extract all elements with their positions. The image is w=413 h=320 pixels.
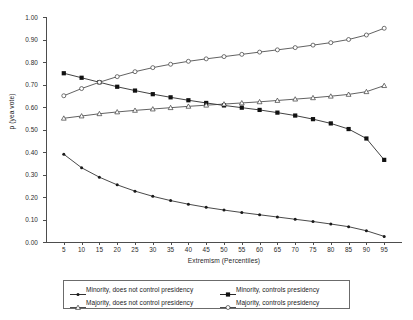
series-line [64, 73, 384, 160]
data-point-small-filled-circle [383, 235, 386, 238]
data-point-filled-square [311, 117, 315, 121]
legend-row: Majority, does not control presidencyMaj… [64, 296, 349, 309]
data-point-small-filled-circle [187, 203, 190, 206]
legend-item[interactable]: Majority, does not control presidency [64, 296, 218, 309]
data-point-open-circle [80, 87, 84, 91]
chart-figure: 0.000.100.200.300.400.500.600.700.800.90… [0, 0, 413, 320]
data-point-open-circle [275, 48, 279, 52]
data-point-filled-square [329, 121, 333, 125]
series-0 [62, 153, 385, 238]
data-point-small-filled-circle [365, 229, 368, 232]
data-point-small-filled-circle [329, 223, 332, 226]
chart-series-layer [0, 0, 413, 320]
data-point-filled-square [293, 113, 297, 117]
data-point-open-circle [382, 26, 386, 30]
data-point-small-filled-circle [62, 153, 65, 156]
data-point-filled-square [226, 292, 230, 296]
data-point-filled-square [151, 92, 155, 96]
data-point-filled-square [80, 76, 84, 80]
data-point-small-filled-circle [312, 220, 315, 223]
legend-label: Majority, controls presidency [236, 298, 319, 307]
data-point-small-filled-circle [151, 195, 154, 198]
data-point-open-triangle [382, 83, 387, 87]
data-point-open-circle [204, 57, 208, 61]
legend-item[interactable]: Minority, controls presidency [218, 283, 349, 296]
data-point-small-filled-circle [294, 218, 297, 221]
data-point-small-filled-circle [240, 211, 243, 214]
series-3 [62, 26, 386, 98]
data-point-open-circle [169, 62, 173, 66]
data-point-open-circle [62, 94, 66, 98]
data-point-filled-square [382, 158, 386, 162]
data-point-filled-square [364, 136, 368, 140]
data-point-open-circle [240, 52, 244, 56]
data-point-small-filled-circle [169, 199, 172, 202]
data-point-open-circle [311, 43, 315, 47]
data-point-small-filled-circle [134, 190, 137, 193]
data-point-small-filled-circle [276, 216, 279, 219]
data-point-open-circle [293, 46, 297, 50]
legend-marker-small-filled-circle-icon [70, 285, 86, 294]
legend-marker-open-circle-icon [220, 298, 236, 307]
series-2 [61, 83, 386, 120]
data-point-small-filled-circle [116, 183, 119, 186]
legend-marker-open-triangle-icon [70, 298, 86, 307]
data-point-open-circle [115, 75, 119, 79]
data-point-open-circle [97, 80, 101, 84]
data-point-open-circle [186, 59, 190, 63]
data-point-open-circle [226, 305, 230, 309]
data-point-small-filled-circle [223, 209, 226, 212]
legend-label: Minority, controls presidency [236, 285, 319, 294]
data-point-open-circle [329, 41, 333, 45]
legend-item[interactable]: Majority, controls presidency [218, 296, 349, 309]
series-line [64, 154, 384, 236]
series-1 [62, 71, 387, 162]
chart-legend: Minority, does not control presidencyMin… [63, 280, 350, 309]
data-point-small-filled-circle [77, 293, 80, 296]
y-axis-title: p (yea vote) [8, 67, 15, 157]
legend-label: Majority, does not control presidency [86, 298, 193, 307]
data-point-open-circle [347, 38, 351, 42]
legend-item[interactable]: Minority, does not control presidency [64, 283, 218, 296]
data-point-open-circle [258, 50, 262, 54]
legend-row: Minority, does not control presidencyMin… [64, 283, 349, 296]
data-point-filled-square [240, 106, 244, 110]
data-point-small-filled-circle [205, 206, 208, 209]
x-axis-title: Extremism (Percentiles) [46, 257, 402, 264]
data-point-open-circle [222, 55, 226, 59]
data-point-filled-square [186, 98, 190, 102]
legend-label: Minority, does not control presidency [86, 285, 193, 294]
data-point-filled-square [133, 88, 137, 92]
data-point-filled-square [62, 71, 66, 75]
data-point-filled-square [347, 127, 351, 131]
data-point-small-filled-circle [347, 225, 350, 228]
data-point-small-filled-circle [258, 213, 261, 216]
data-point-open-circle [133, 70, 137, 74]
data-point-filled-square [115, 85, 119, 89]
data-point-filled-square [258, 108, 262, 112]
data-point-filled-square [275, 111, 279, 115]
data-point-small-filled-circle [98, 176, 101, 179]
data-point-open-circle [364, 33, 368, 37]
data-point-open-circle [151, 66, 155, 70]
data-point-small-filled-circle [80, 166, 83, 169]
legend-marker-filled-square-icon [220, 285, 236, 294]
data-point-filled-square [169, 95, 173, 99]
